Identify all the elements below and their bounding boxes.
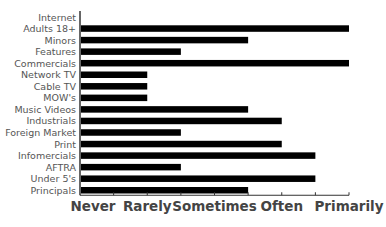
x-tick-label: Rarely xyxy=(123,198,172,214)
category-labels-group: InternetAdults 18+MinorsFeaturesCommerci… xyxy=(5,12,76,196)
x-tick-label: Primarily xyxy=(314,198,383,214)
x-tick-label: Never xyxy=(70,198,115,214)
category-label: Minors xyxy=(44,35,76,46)
x-tick-label: Often xyxy=(260,198,303,214)
bar xyxy=(81,48,181,55)
bar xyxy=(81,164,181,171)
bars-group xyxy=(81,25,349,193)
bar xyxy=(81,83,147,90)
category-label: Industrials xyxy=(26,115,76,126)
bar xyxy=(81,106,248,113)
category-label: Adults 18+ xyxy=(23,23,76,34)
bar xyxy=(81,187,248,194)
category-label: Music Videos xyxy=(14,104,76,115)
category-label: Principals xyxy=(31,185,76,196)
bar xyxy=(81,25,349,32)
category-label: Network TV xyxy=(21,69,76,80)
bar xyxy=(81,129,181,136)
bar xyxy=(81,152,315,159)
bar xyxy=(81,37,248,44)
bar-chart: InternetAdults 18+MinorsFeaturesCommerci… xyxy=(0,0,386,227)
bar xyxy=(81,141,282,148)
category-label: Features xyxy=(35,46,76,57)
bar xyxy=(81,175,315,182)
bar xyxy=(81,118,282,125)
x-tick-label: Sometimes xyxy=(172,198,257,214)
category-label: Infomercials xyxy=(18,150,76,161)
category-label: Print xyxy=(54,139,76,150)
category-label: Foreign Market xyxy=(5,127,76,138)
x-tick-labels-group: NeverRarelySometimesOftenPrimarily xyxy=(70,198,383,214)
category-label: Under 5's xyxy=(31,173,76,184)
bar xyxy=(81,60,349,66)
category-label: Cable TV xyxy=(34,81,77,92)
category-label: Internet xyxy=(38,12,76,23)
bar xyxy=(81,95,147,102)
category-label: AFTRA xyxy=(46,162,77,173)
category-label: MOW's xyxy=(43,92,76,103)
bar xyxy=(81,72,147,79)
category-label: Commercials xyxy=(14,58,76,69)
